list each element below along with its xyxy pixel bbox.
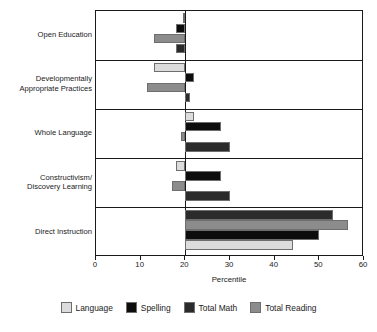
category-label-line: Developmentally — [0, 74, 92, 84]
category-label: Open Education — [0, 30, 92, 40]
x-tick-label: 10 — [135, 260, 144, 269]
group-separator — [96, 158, 362, 159]
bar-language — [154, 63, 185, 73]
bar-total-math — [176, 44, 185, 54]
bar-spelling — [185, 230, 319, 240]
legend-swatch-icon — [126, 302, 137, 313]
legend-label: Language — [76, 303, 113, 313]
group-separator — [96, 207, 362, 208]
category-label: Constructivism/Discovery Learning — [0, 173, 92, 192]
x-tick-label: 30 — [225, 260, 234, 269]
bar-total-math — [185, 210, 332, 220]
bar-language — [185, 112, 194, 122]
category-label-line: Direct Instruction — [0, 227, 92, 237]
bar-total-reading — [172, 181, 185, 191]
legend-label: Total Math — [199, 303, 238, 313]
category-label: Whole Language — [0, 128, 92, 138]
x-tick-label: 0 — [93, 260, 97, 269]
x-tick-label: 50 — [314, 260, 323, 269]
category-label-line: Open Education — [0, 30, 92, 40]
bar-spelling — [185, 171, 221, 181]
x-tick-label: 20 — [180, 260, 189, 269]
category-label-line: Discovery Learning — [0, 182, 92, 192]
x-axis-title: Percentile — [95, 275, 363, 284]
legend-item[interactable]: Total Math — [184, 302, 238, 313]
legend-item[interactable]: Spelling — [126, 302, 171, 313]
legend-swatch-icon — [61, 302, 72, 313]
bar-spelling — [176, 24, 185, 34]
group-separator — [96, 60, 362, 61]
category-label-line: Constructivism/ — [0, 173, 92, 183]
bar-total-math — [185, 93, 189, 103]
x-axis: 0102030405060 — [95, 256, 363, 257]
legend-label: Total Reading — [265, 303, 316, 313]
bar-total-math — [185, 142, 230, 152]
bar-total-reading — [185, 220, 348, 230]
legend-item[interactable]: Total Reading — [250, 302, 316, 313]
category-label-line: Appropriate Practices — [0, 84, 92, 94]
bar-spelling — [185, 122, 221, 132]
legend: LanguageSpellingTotal MathTotal Reading — [0, 302, 377, 313]
category-label: DevelopmentallyAppropriate Practices — [0, 74, 92, 93]
category-label-line: Whole Language — [0, 128, 92, 138]
legend-swatch-icon — [184, 302, 195, 313]
percentile-bar-chart: Open EducationDevelopmentallyAppropriate… — [0, 0, 377, 332]
legend-swatch-icon — [250, 302, 261, 313]
bar-total-math — [185, 191, 230, 201]
x-tick-label: 60 — [359, 260, 368, 269]
bar-total-reading — [181, 132, 185, 142]
plot-area — [95, 10, 363, 256]
bar-total-reading — [154, 34, 185, 44]
x-tick-label: 40 — [269, 260, 278, 269]
bar-total-reading — [147, 83, 185, 93]
legend-label: Spelling — [141, 303, 171, 313]
bar-language — [176, 161, 185, 171]
bar-language — [185, 240, 292, 250]
bar-language — [183, 13, 185, 23]
bar-spelling — [185, 73, 194, 83]
group-separator — [96, 109, 362, 110]
legend-item[interactable]: Language — [61, 302, 113, 313]
category-label: Direct Instruction — [0, 227, 92, 237]
